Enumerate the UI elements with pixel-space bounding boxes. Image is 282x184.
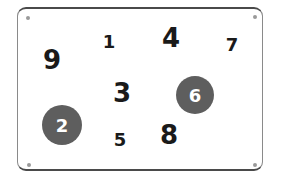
number-1[interactable]: 1 <box>103 33 116 51</box>
corner-dot-icon <box>27 163 31 167</box>
number-5[interactable]: 5 <box>114 131 127 149</box>
corner-dot-icon <box>253 15 257 19</box>
corner-dot-icon <box>26 16 30 20</box>
number-9[interactable]: 9 <box>43 47 61 73</box>
number-4[interactable]: 4 <box>162 25 180 51</box>
number-2-marked[interactable]: 2 <box>42 105 82 145</box>
number-8[interactable]: 8 <box>160 122 178 148</box>
game-board <box>17 7 263 171</box>
number-3[interactable]: 3 <box>113 80 131 106</box>
number-6-marked[interactable]: 6 <box>176 76 214 114</box>
corner-dot-icon <box>253 163 257 167</box>
number-7[interactable]: 7 <box>226 36 239 54</box>
